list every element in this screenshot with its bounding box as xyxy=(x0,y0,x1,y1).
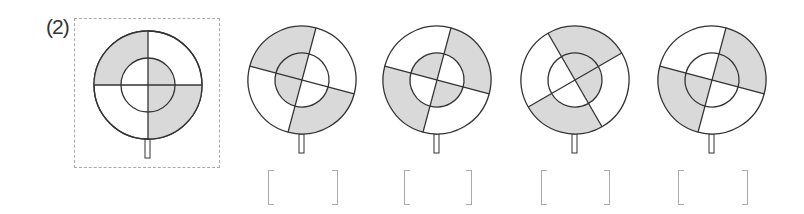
left-bracket xyxy=(404,170,410,205)
right-bracket xyxy=(332,170,338,205)
left-bracket xyxy=(678,170,684,205)
left-bracket xyxy=(268,170,274,205)
right-bracket xyxy=(742,170,748,205)
option-2-lollipop xyxy=(371,14,503,153)
reference-lollipop xyxy=(94,31,202,158)
right-bracket xyxy=(604,170,610,205)
option-1-lollipop xyxy=(236,14,368,153)
option-4-lollipop xyxy=(646,14,778,153)
right-bracket xyxy=(466,170,472,205)
left-bracket xyxy=(541,170,547,205)
option-3-lollipop xyxy=(501,6,649,154)
